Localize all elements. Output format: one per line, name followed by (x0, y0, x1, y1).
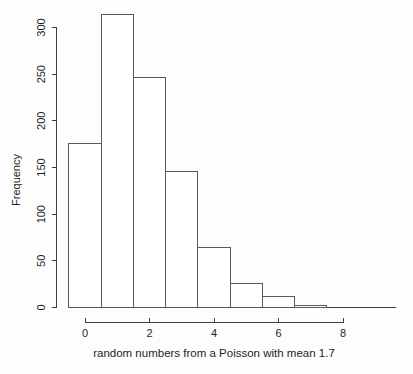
table-row (69, 143, 101, 307)
y-tick-label-250: 250 (35, 65, 47, 83)
histogram-bars (69, 14, 327, 307)
x-tick-label-4: 4 (211, 327, 217, 339)
table-row (166, 171, 198, 307)
x-tick-label-6: 6 (275, 327, 281, 339)
x-axis-title: random numbers from a Poisson with mean … (93, 347, 335, 359)
table-row (101, 14, 133, 307)
y-axis-title: Frequency (10, 154, 22, 206)
y-axis (52, 28, 57, 308)
x-axis (85, 318, 343, 323)
y-tick-label-0: 0 (35, 304, 47, 310)
y-tick-label-150: 150 (35, 158, 47, 176)
x-tick-label-2: 2 (146, 327, 152, 339)
y-tick-label-100: 100 (35, 205, 47, 223)
table-row (295, 306, 327, 308)
y-tick-label-50: 50 (35, 255, 47, 267)
table-row (133, 77, 165, 308)
x-tick-label-8: 8 (340, 327, 346, 339)
table-row (198, 248, 230, 308)
y-tick-label-200: 200 (35, 112, 47, 130)
y-tick-label-300: 300 (35, 18, 47, 36)
x-tick-label-0: 0 (82, 327, 88, 339)
table-row (262, 296, 294, 307)
plot-canvas: 300 250 200 150 100 50 0 Frequency (0, 0, 413, 374)
x-tick-labels: 0 2 4 6 8 (82, 327, 346, 339)
histogram-plot: 300 250 200 150 100 50 0 Frequency (0, 0, 413, 374)
y-tick-labels: 300 250 200 150 100 50 0 (35, 18, 47, 310)
table-row (230, 283, 262, 307)
